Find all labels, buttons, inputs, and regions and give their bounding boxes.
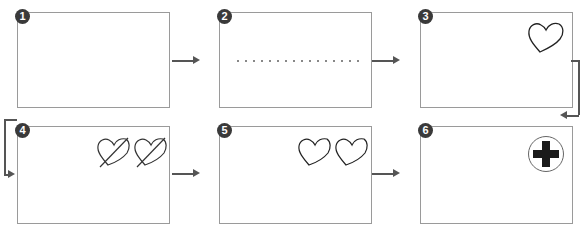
arrow-right-icon bbox=[172, 60, 194, 62]
step-badge: 4 bbox=[15, 123, 30, 138]
arrow-right-icon bbox=[172, 173, 194, 175]
step-badge: 5 bbox=[217, 123, 232, 138]
arrow-right-icon bbox=[4, 174, 9, 176]
connector-line bbox=[4, 119, 17, 121]
medical-cross-icon bbox=[527, 135, 565, 173]
arrow-right-icon bbox=[372, 173, 394, 175]
dotted-line bbox=[234, 60, 362, 62]
connector-line bbox=[578, 60, 580, 115]
step-badge: 1 bbox=[15, 9, 30, 24]
heart-icon bbox=[527, 20, 565, 54]
crossed-heart-icon bbox=[97, 136, 131, 168]
heart-icon bbox=[335, 136, 369, 168]
step-badge: 6 bbox=[418, 123, 433, 138]
step-panel-3: 3 bbox=[420, 12, 573, 108]
connector-line bbox=[4, 119, 6, 175]
step-panel-4: 4 bbox=[17, 126, 170, 224]
arrow-left-icon bbox=[566, 115, 579, 117]
crossed-heart-icon bbox=[134, 136, 168, 168]
step-badge: 3 bbox=[418, 9, 433, 24]
step-badge: 2 bbox=[217, 9, 232, 24]
arrow-right-icon bbox=[372, 60, 394, 62]
step-panel-1: 1 bbox=[17, 12, 170, 108]
heart-icon bbox=[298, 136, 332, 168]
step-panel-6: 6 bbox=[420, 126, 573, 224]
step-panel-5: 5 bbox=[219, 126, 372, 224]
step-panel-2: 2 bbox=[219, 12, 372, 108]
